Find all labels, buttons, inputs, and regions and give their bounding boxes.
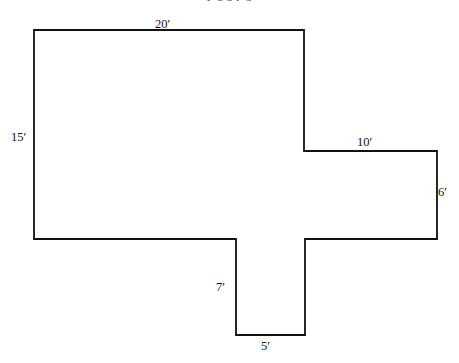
figure-stage: y g g p g 20′ 15′ 10′ 6′ 7′ 5′ xyxy=(0,0,459,363)
dimension-label-bottom-tab-left-7ft: 7′ xyxy=(216,281,225,294)
dimension-label-left-15ft: 15′ xyxy=(11,131,26,144)
dimension-label-bottom-tab-bottom-5ft: 5′ xyxy=(261,340,270,353)
dimension-label-top-20ft: 20′ xyxy=(155,18,170,31)
polygon-figure-svg xyxy=(0,0,459,363)
polygon-outline-path xyxy=(34,30,437,335)
dimension-label-right-wing-top-10ft: 10′ xyxy=(357,136,372,149)
dimension-label-right-wing-right-6ft: 6′ xyxy=(438,186,447,199)
